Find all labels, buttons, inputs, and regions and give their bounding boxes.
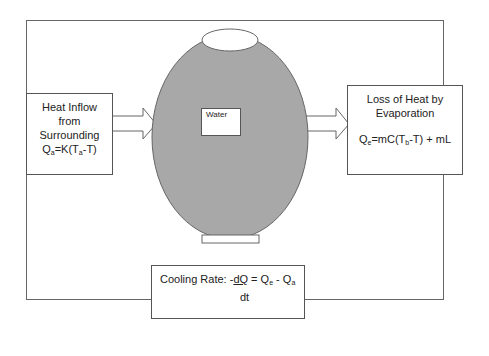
water-label: Water [206,110,227,119]
outflow-arrow [305,108,349,139]
heat-inflow-box: Heat Inflow from Surrounding Qa=K(Ta-T) [26,93,113,175]
evaporation-line-1: Loss of Heat by [348,92,462,106]
cooling-rate-equation: Cooling Rate: -dQ = Qe - Qa [160,272,304,290]
water-vessel [152,35,308,239]
vessel-top-opening [202,29,258,51]
cooling-rate-box: Cooling Rate: -dQ = Qe - Qa dt [151,265,305,319]
vessel-base [202,235,259,243]
heat-inflow-line-1: Heat Inflow [27,100,112,114]
heat-inflow-line-2: from [27,114,112,128]
cooling-rate-denominator: dt [160,290,304,304]
heat-inflow-line-3: Surrounding [27,128,112,142]
water-label-box: Water [201,108,241,136]
evaporation-loss-box: Loss of Heat by Evaporation Qe=mC(Tb-T) … [347,85,463,175]
heat-inflow-formula: Qa=K(Ta-T) [27,142,112,160]
inflow-arrow [112,108,156,139]
evaporation-line-2: Evaporation [348,106,462,120]
evaporation-formula: Qe=mC(Tb-T) + mL [348,132,462,150]
